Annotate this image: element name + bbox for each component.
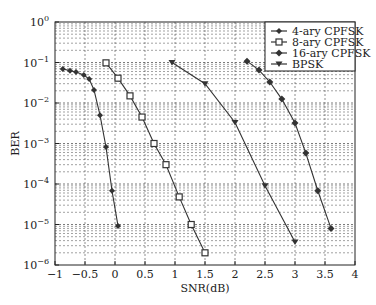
y-tick-label: 10−3 bbox=[23, 136, 49, 151]
x-tick-label: 0 bbox=[112, 268, 119, 281]
x-tick-label: 3 bbox=[292, 268, 299, 281]
x-tick-label: 1 bbox=[172, 268, 179, 281]
y-tick-label: 10−5 bbox=[23, 217, 49, 232]
x-axis-label: SNR(dB) bbox=[180, 282, 229, 295]
x-tick-label: 0.5 bbox=[136, 268, 154, 281]
legend: 4-ary CPFSK8-ary CPFSK16-ary CPFSKBPSK bbox=[265, 22, 371, 71]
x-axis-ticks: −1−0.500.511.522.533.54 bbox=[47, 261, 359, 281]
x-tick-label: −0.5 bbox=[72, 268, 99, 281]
x-tick-label: 3.5 bbox=[316, 268, 334, 281]
y-tick-label: 100 bbox=[30, 14, 49, 29]
legend-label: BPSK bbox=[292, 58, 324, 71]
y-axis-label: BER bbox=[9, 131, 22, 156]
x-tick-label: 2 bbox=[232, 268, 239, 281]
x-tick-label: −1 bbox=[47, 268, 63, 281]
x-tick-label: 2.5 bbox=[256, 268, 274, 281]
y-tick-label: 10−4 bbox=[23, 176, 49, 191]
y-tick-label: 10−1 bbox=[23, 55, 49, 70]
y-tick-label: 10−6 bbox=[23, 257, 49, 272]
ber-chart: −1−0.500.511.522.533.54 10010−110−210−31… bbox=[0, 0, 376, 305]
x-tick-label: 1.5 bbox=[196, 268, 214, 281]
x-tick-label: 4 bbox=[352, 268, 359, 281]
series-group bbox=[60, 58, 335, 256]
y-axis-ticks: 10010−110−210−310−410−510−6 bbox=[23, 14, 59, 272]
y-tick-label: 10−2 bbox=[23, 95, 49, 110]
